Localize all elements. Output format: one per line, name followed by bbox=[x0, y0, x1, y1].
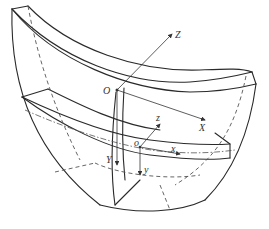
shell-outline bbox=[12, 6, 256, 211]
local-x-label: x bbox=[170, 143, 176, 154]
global-axes: O Z X Y bbox=[103, 29, 206, 165]
diagram-svg: O Z X Y o z x y bbox=[0, 0, 269, 229]
global-origin-label: O bbox=[103, 85, 110, 96]
hidden-lines bbox=[28, 6, 246, 210]
global-x-axis bbox=[117, 90, 205, 120]
global-x-label: X bbox=[198, 122, 206, 133]
local-origin-label: o bbox=[134, 137, 139, 148]
local-y-label: y bbox=[143, 164, 149, 175]
local-axes: o z x y bbox=[134, 112, 180, 175]
shell-diagram: O Z X Y o z x y bbox=[0, 0, 269, 229]
local-z-label: z bbox=[155, 112, 160, 123]
global-z-label: Z bbox=[175, 29, 181, 40]
